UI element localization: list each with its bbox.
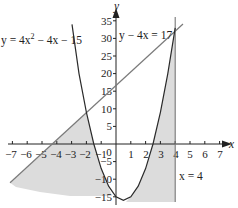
y-tick-label: −5 (100, 155, 112, 167)
y-tick-label: −15 (95, 191, 113, 203)
x-tick-label: −4 (50, 148, 62, 160)
y-tick-label: 30 (101, 32, 113, 44)
parabola-eq-rhs: − 4x − 15 (35, 34, 83, 46)
x-tick-label: −6 (20, 148, 32, 160)
y-tick-label: 25 (101, 50, 113, 62)
x-tick-label: −3 (65, 148, 77, 160)
x-tick-labels: −7 −6 −5 −4 −3 −2 −1 1 2 3 4 5 6 7 (5, 148, 223, 160)
x-tick-label: 4 (173, 148, 179, 160)
x-tick-label: 2 (143, 148, 149, 160)
vertical-line-equation-label: x = 4 (179, 170, 203, 182)
graph-canvas: x y −7 −6 −5 −4 −3 −2 −1 1 2 3 4 5 6 7 0 (0, 0, 238, 208)
x-tick-label: 3 (158, 148, 164, 160)
x-tick-label: −7 (5, 148, 17, 160)
y-tick-label: 35 (101, 15, 113, 27)
x-axis-label: x (228, 138, 235, 150)
parabola-eq-lhs: y = 4x (1, 34, 31, 47)
x-tick-label: −2 (79, 148, 91, 160)
y-tick-label: 20 (101, 67, 113, 79)
y-axis-label: y (113, 0, 120, 13)
line-equation-label: y − 4x = 17 (119, 29, 172, 42)
x-tick-label: 6 (202, 148, 208, 160)
parabola-equation-label: y = 4x2 − 4x − 15 (1, 32, 82, 47)
y-tick-label: 5 (107, 120, 113, 132)
y-tick-label: 10 (101, 103, 113, 115)
x-tick-label: 1 (128, 148, 134, 160)
x-tick-label: 7 (217, 148, 223, 160)
x-tick-label: 5 (187, 148, 193, 160)
